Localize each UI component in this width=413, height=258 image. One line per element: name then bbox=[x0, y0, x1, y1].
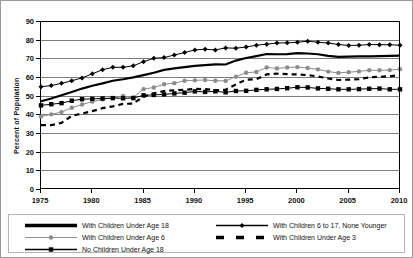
data-point bbox=[49, 112, 53, 116]
x-axis-tick-label: 1995 bbox=[237, 196, 254, 205]
data-point bbox=[213, 89, 217, 93]
legend-column-1: With Children 6 to 17, None YoungerWith … bbox=[214, 219, 387, 243]
series-4 bbox=[39, 85, 402, 108]
legend-item[interactable]: With Children Under Age 3 bbox=[214, 231, 387, 243]
legend-label: No Children Under Age 18 bbox=[82, 244, 164, 255]
data-point bbox=[264, 65, 268, 69]
legend-marker-icon bbox=[23, 220, 79, 231]
legend-label: With Children 6 to 17, None Younger bbox=[273, 220, 387, 231]
data-point bbox=[234, 74, 238, 78]
data-point bbox=[172, 91, 176, 95]
data-point bbox=[264, 42, 269, 47]
data-point bbox=[151, 56, 156, 61]
data-point bbox=[295, 65, 299, 69]
data-point bbox=[295, 85, 299, 89]
data-point bbox=[388, 68, 392, 72]
y-axis-tick-label: 70 bbox=[26, 54, 34, 63]
data-point bbox=[59, 110, 63, 114]
x-axis-tick-label: 2000 bbox=[288, 196, 305, 205]
chart-frame: Percent of Population 010203040506070809… bbox=[0, 0, 413, 258]
x-axis-tick bbox=[399, 189, 400, 193]
data-point bbox=[275, 87, 279, 91]
y-axis-tick-label: 50 bbox=[26, 91, 34, 100]
data-point bbox=[111, 96, 115, 100]
data-point bbox=[131, 63, 136, 68]
data-point bbox=[316, 86, 320, 90]
data-point bbox=[193, 89, 197, 93]
data-point bbox=[100, 96, 104, 100]
data-point bbox=[234, 89, 238, 93]
legend-item[interactable]: With Children 6 to 17, None Younger bbox=[214, 219, 387, 231]
x-axis-tick-label: 1980 bbox=[83, 196, 100, 205]
data-point bbox=[347, 70, 351, 74]
series-line bbox=[41, 74, 400, 126]
data-point bbox=[244, 71, 248, 75]
legend-marker-icon bbox=[23, 232, 79, 243]
data-point bbox=[39, 103, 43, 107]
legend-column-0: With Children Under Age 18With Children … bbox=[23, 219, 169, 255]
data-point bbox=[387, 42, 392, 47]
data-point bbox=[162, 82, 166, 86]
data-point bbox=[141, 59, 146, 64]
data-point bbox=[244, 89, 248, 93]
y-axis-tick-label: 20 bbox=[26, 147, 34, 156]
y-axis-tick-label: 40 bbox=[26, 110, 34, 119]
data-point bbox=[70, 99, 74, 103]
data-point bbox=[121, 65, 126, 70]
data-point bbox=[367, 87, 371, 91]
y-axis-label: Percent of Population bbox=[9, 61, 23, 171]
data-point bbox=[59, 81, 64, 86]
y-axis-tick-label: 90 bbox=[26, 17, 34, 26]
data-point bbox=[100, 67, 105, 72]
data-point bbox=[141, 93, 145, 97]
x-axis: 19751980198519901995200020052010 bbox=[40, 189, 399, 211]
data-point bbox=[80, 75, 85, 80]
data-point bbox=[275, 66, 279, 70]
series-line bbox=[41, 87, 400, 105]
data-point bbox=[90, 71, 95, 76]
data-point bbox=[356, 43, 361, 48]
chart-legend: With Children Under Age 18With Children … bbox=[8, 214, 405, 253]
data-point bbox=[39, 114, 43, 118]
series-3 bbox=[41, 74, 400, 126]
data-point bbox=[141, 87, 145, 91]
data-point bbox=[223, 45, 228, 50]
y-axis-tick-label: 10 bbox=[26, 166, 34, 175]
data-point bbox=[377, 86, 381, 90]
data-point bbox=[121, 96, 125, 100]
data-point bbox=[388, 87, 392, 91]
data-point bbox=[367, 68, 371, 72]
data-point bbox=[193, 78, 197, 82]
data-point bbox=[213, 79, 217, 83]
data-point bbox=[326, 87, 330, 91]
data-point bbox=[223, 90, 227, 94]
legend-item[interactable]: With Children Under Age 18 bbox=[23, 219, 169, 231]
data-point bbox=[316, 67, 320, 71]
data-point bbox=[203, 90, 207, 94]
series-layer bbox=[41, 21, 400, 189]
data-point bbox=[295, 40, 300, 45]
data-point bbox=[172, 81, 176, 85]
x-axis-tick-label: 2005 bbox=[339, 196, 356, 205]
y-axis-tick-label: 60 bbox=[26, 73, 34, 82]
data-point bbox=[152, 93, 156, 97]
data-point bbox=[285, 65, 289, 69]
y-axis-tick-label: 0 bbox=[30, 185, 34, 194]
data-point bbox=[203, 78, 207, 82]
data-point bbox=[357, 87, 361, 91]
legend-label: With Children Under Age 18 bbox=[82, 220, 169, 231]
legend-marker-icon bbox=[214, 232, 270, 243]
data-point bbox=[182, 90, 186, 94]
data-point bbox=[326, 69, 330, 73]
legend-item[interactable]: With Children Under Age 6 bbox=[23, 231, 169, 243]
data-point bbox=[347, 87, 351, 91]
x-axis-tick bbox=[143, 189, 144, 193]
x-axis-tick bbox=[296, 189, 297, 193]
plot-area: 0102030405060708090 bbox=[40, 21, 399, 189]
x-axis-tick-label: 1990 bbox=[186, 196, 203, 205]
data-point bbox=[377, 42, 382, 47]
data-point bbox=[59, 101, 63, 105]
plot-top-border bbox=[40, 21, 399, 22]
y-axis-tick-label: 80 bbox=[26, 35, 34, 44]
legend-item[interactable]: No Children Under Age 18 bbox=[23, 243, 169, 255]
